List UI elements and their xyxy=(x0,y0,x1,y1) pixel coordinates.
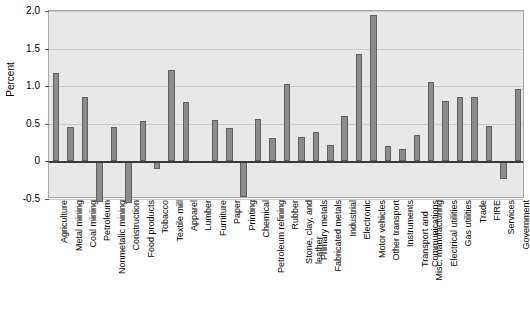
bar xyxy=(385,146,392,162)
bar xyxy=(298,137,305,162)
bar xyxy=(356,54,363,162)
bar xyxy=(168,70,175,162)
x-tick-label: Gas utilities xyxy=(463,200,473,247)
x-tick-label: Lumber xyxy=(203,200,213,231)
x-tick-label: Petroleum refining xyxy=(276,200,286,273)
x-tick-label: Primary metals xyxy=(319,200,329,260)
bar xyxy=(67,127,74,162)
bar xyxy=(125,161,132,202)
x-tick-label: Fabricated metals xyxy=(333,200,343,272)
x-tick-label: Other transport xyxy=(391,200,401,261)
x-tick-label: Nonmetalic mining xyxy=(117,200,127,274)
y-tick-label: 0.5 xyxy=(26,117,40,128)
y-tick-label: 2.0 xyxy=(26,5,40,16)
bar xyxy=(313,132,320,161)
x-tick-label: Chemical xyxy=(261,200,271,238)
x-tick-label: Petroleum xyxy=(102,200,112,241)
bar xyxy=(327,145,334,162)
x-tick-label: Tobacco xyxy=(160,200,170,234)
x-tick-label: Textile mill xyxy=(175,200,185,242)
x-tick-label: Coal mining xyxy=(88,200,98,248)
x-tick-label: Electronic xyxy=(362,200,372,240)
x-tick-label: Metal mining xyxy=(74,200,84,251)
bar xyxy=(486,126,493,161)
y-tick-label: 0 xyxy=(34,155,40,166)
bar xyxy=(457,97,464,161)
bar xyxy=(399,149,406,162)
bar xyxy=(82,97,89,161)
y-tick-label: 1.5 xyxy=(26,42,40,53)
bar xyxy=(284,84,291,161)
x-tick-label: FIRE xyxy=(492,200,502,221)
x-tick-label: Electrical utilities xyxy=(449,200,459,267)
bar xyxy=(442,101,449,161)
bar-chart: Percent 2.01.51.00.50-0.5 AgricultureMet… xyxy=(0,0,530,317)
y-tick-label: -0.5 xyxy=(23,193,40,204)
x-tick-label: Construction xyxy=(131,200,141,251)
x-tick-label: Misc. manufacturing xyxy=(434,200,444,281)
plot-area xyxy=(48,10,524,198)
bar xyxy=(53,73,60,161)
x-tick-label: Motor vehicles xyxy=(377,200,387,258)
x-tick-label: Services xyxy=(506,200,516,235)
bar xyxy=(111,127,118,162)
x-tick-label: Printing xyxy=(247,200,257,231)
bar xyxy=(140,121,147,162)
bar xyxy=(515,89,522,161)
bar xyxy=(269,138,276,161)
y-axis-tick-labels: 2.01.51.00.50-0.5 xyxy=(0,0,46,317)
x-tick-label: Rubber xyxy=(290,200,300,230)
y-tick-label: 1.0 xyxy=(26,80,40,91)
x-tick-label: Agriculture xyxy=(59,200,69,243)
bar xyxy=(96,161,103,202)
bar xyxy=(226,128,233,161)
zero-line xyxy=(49,161,523,163)
x-tick-label: Industrial xyxy=(348,200,358,237)
bar xyxy=(471,97,478,161)
bar xyxy=(240,161,247,197)
bar-series xyxy=(49,11,523,197)
x-tick-label: Apparel xyxy=(189,200,199,231)
bar xyxy=(255,119,262,161)
x-tick-label: Instruments xyxy=(405,200,415,247)
x-tick-label: Food products xyxy=(146,200,156,258)
bar xyxy=(341,116,348,162)
bar xyxy=(183,102,190,161)
x-tick-label: Government xyxy=(521,200,530,250)
x-tick-label: Trade xyxy=(478,200,488,223)
bar xyxy=(500,161,507,179)
bar xyxy=(428,82,435,162)
bar xyxy=(414,135,421,161)
bar xyxy=(212,120,219,161)
bar xyxy=(370,15,377,162)
x-axis-category-labels: AgricultureMetal miningCoal miningPetrol… xyxy=(48,200,524,317)
x-tick-label: Furniture xyxy=(218,200,228,236)
x-tick-label: Paper xyxy=(232,200,242,224)
